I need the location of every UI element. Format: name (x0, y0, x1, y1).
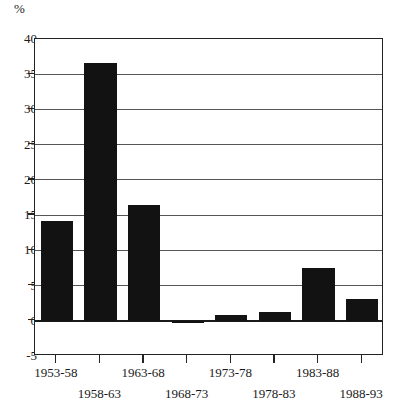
x-axis-tick-label: 1958-63 (78, 387, 121, 401)
x-axis-tick-mark (361, 355, 362, 363)
x-axis-tick-label: 1973-78 (209, 366, 252, 380)
bars-group (35, 39, 382, 354)
bar (84, 63, 116, 321)
x-axis-tick-mark (55, 355, 56, 363)
bar (215, 315, 247, 321)
y-axis-unit-label: % (14, 2, 25, 15)
x-axis-tick-label: 1963-68 (121, 366, 164, 380)
x-axis-tick-label: 1953-58 (34, 366, 77, 380)
x-axis-tick-label: 1968-73 (165, 387, 208, 401)
bar (128, 205, 160, 321)
x-axis-tick-label: 1983-88 (296, 366, 339, 380)
x-axis-tick-mark (273, 355, 274, 363)
y-axis-tick-label: -5 (0, 349, 37, 362)
bar (346, 299, 378, 321)
bar (302, 268, 334, 321)
bar (41, 221, 73, 320)
x-axis-tick-label: 1978-83 (252, 387, 295, 401)
plot-area (34, 38, 383, 355)
x-axis-tick-label: 1988-93 (340, 387, 383, 401)
x-axis-tick-mark (317, 355, 318, 363)
bar-chart: % 4035302520151050-5 1953-581958-631963-… (0, 0, 393, 412)
bar (259, 312, 291, 321)
x-axis-tick-mark (186, 355, 187, 363)
x-axis-tick-mark (99, 355, 100, 363)
bar (172, 321, 204, 323)
x-axis-tick-mark (142, 355, 143, 363)
y-axis-tick-label: 40 (0, 32, 37, 45)
x-axis-tick-mark (230, 355, 231, 363)
